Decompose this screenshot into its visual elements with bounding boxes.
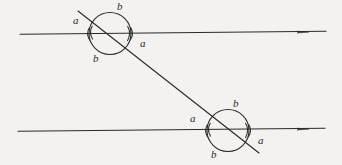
lower-parallel-line bbox=[18, 128, 325, 131]
lower-right-angle-tick-2 bbox=[245, 123, 247, 138]
geometry-figure: a b a b a b a b bbox=[0, 0, 342, 165]
upper-left-angle-label-a: a bbox=[73, 15, 79, 26]
lower-top-angle-label-b: b bbox=[233, 98, 239, 109]
lower-right-angle-label-a: a bbox=[258, 135, 264, 146]
upper-left-angle-tick-2 bbox=[90, 26, 92, 40]
upper-right-angle-label-a: a bbox=[140, 38, 146, 49]
upper-top-angle-label-b: b bbox=[117, 1, 123, 12]
upper-bottom-angle-label-b: b bbox=[93, 53, 99, 64]
lower-bottom-angle-label-b: b bbox=[211, 149, 217, 160]
geometry-diagram-svg bbox=[0, 0, 342, 165]
upper-parallel-line bbox=[20, 31, 326, 34]
lower-intersection-circle bbox=[207, 110, 249, 152]
lower-left-angle-label-a: a bbox=[190, 113, 196, 124]
